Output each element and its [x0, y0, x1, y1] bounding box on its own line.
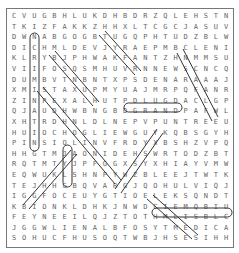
letter-cell[interactable]: M: [49, 149, 59, 160]
letter-cell[interactable]: D: [110, 149, 120, 160]
letter-cell[interactable]: F: [39, 64, 49, 75]
letter-cell[interactable]: H: [150, 32, 160, 43]
letter-cell[interactable]: S: [39, 138, 49, 149]
letter-cell[interactable]: J: [140, 85, 150, 96]
letter-cell[interactable]: Q: [191, 191, 201, 202]
letter-cell[interactable]: E: [19, 212, 29, 223]
letter-cell[interactable]: K: [80, 22, 90, 33]
letter-cell[interactable]: Q: [70, 64, 80, 75]
letter-cell[interactable]: D: [49, 106, 59, 117]
letter-cell[interactable]: E: [181, 233, 191, 244]
letter-cell[interactable]: O: [70, 128, 80, 139]
letter-cell[interactable]: T: [110, 96, 120, 107]
letter-cell[interactable]: R: [120, 43, 130, 54]
letter-cell[interactable]: K: [100, 202, 110, 213]
letter-cell[interactable]: L: [100, 117, 110, 128]
letter-cell[interactable]: N: [201, 64, 211, 75]
letter-cell[interactable]: S: [201, 22, 211, 33]
letter-cell[interactable]: S: [9, 233, 19, 244]
letter-cell[interactable]: C: [150, 202, 160, 213]
letter-cell[interactable]: N: [90, 106, 100, 117]
letter-cell[interactable]: P: [211, 138, 221, 149]
letter-cell[interactable]: H: [49, 181, 59, 192]
letter-cell[interactable]: T: [9, 22, 19, 33]
letter-cell[interactable]: C: [191, 96, 201, 107]
letter-cell[interactable]: I: [171, 159, 181, 170]
letter-cell[interactable]: N: [160, 106, 170, 117]
letter-cell[interactable]: V: [191, 181, 201, 192]
letter-cell[interactable]: T: [171, 149, 181, 160]
letter-cell[interactable]: S: [181, 64, 191, 75]
letter-cell[interactable]: C: [211, 223, 221, 234]
letter-cell[interactable]: E: [171, 202, 181, 213]
letter-cell[interactable]: A: [201, 75, 211, 86]
letter-cell[interactable]: L: [80, 212, 90, 223]
letter-cell[interactable]: U: [110, 64, 120, 75]
letter-cell[interactable]: G: [130, 128, 140, 139]
letter-cell[interactable]: V: [140, 117, 150, 128]
letter-cell[interactable]: Y: [110, 170, 120, 181]
letter-cell[interactable]: K: [9, 202, 19, 213]
letter-cell[interactable]: G: [211, 96, 221, 107]
letter-cell[interactable]: P: [80, 159, 90, 170]
letter-cell[interactable]: T: [9, 181, 19, 192]
letter-cell[interactable]: R: [130, 64, 140, 75]
letter-cell[interactable]: E: [140, 191, 150, 202]
letter-cell[interactable]: P: [70, 53, 80, 64]
letter-cell[interactable]: X: [120, 159, 130, 170]
letter-cell[interactable]: N: [80, 223, 90, 234]
letter-cell[interactable]: S: [201, 11, 211, 22]
letter-cell[interactable]: P: [171, 85, 181, 96]
letter-cell[interactable]: Q: [9, 106, 19, 117]
letter-cell[interactable]: I: [80, 138, 90, 149]
letter-cell[interactable]: S: [130, 159, 140, 170]
letter-cell[interactable]: L: [211, 212, 221, 223]
letter-cell[interactable]: L: [150, 191, 160, 202]
letter-cell[interactable]: J: [70, 159, 80, 170]
letter-cell[interactable]: B: [110, 106, 120, 117]
letter-cell[interactable]: M: [171, 223, 181, 234]
letter-cell[interactable]: R: [221, 85, 231, 96]
letter-cell[interactable]: Z: [90, 22, 100, 33]
letter-cell[interactable]: F: [110, 138, 120, 149]
letter-cell[interactable]: W: [90, 53, 100, 64]
letter-cell[interactable]: U: [29, 11, 39, 22]
letter-cell[interactable]: L: [80, 96, 90, 107]
letter-cell[interactable]: J: [9, 223, 19, 234]
letter-cell[interactable]: T: [120, 233, 130, 244]
letter-cell[interactable]: E: [70, 191, 80, 202]
letter-cell[interactable]: L: [59, 43, 69, 54]
letter-cell[interactable]: Q: [160, 11, 170, 22]
letter-cell[interactable]: D: [130, 11, 140, 22]
letter-cell[interactable]: B: [110, 223, 120, 234]
letter-cell[interactable]: M: [160, 43, 170, 54]
letter-cell[interactable]: G: [29, 191, 39, 202]
letter-cell[interactable]: G: [80, 128, 90, 139]
letter-cell[interactable]: H: [59, 128, 69, 139]
letter-cell[interactable]: Q: [19, 170, 29, 181]
letter-cell[interactable]: B: [201, 32, 211, 43]
letter-cell[interactable]: B: [140, 233, 150, 244]
letter-cell[interactable]: Q: [221, 64, 231, 75]
letter-cell[interactable]: A: [191, 22, 201, 33]
letter-cell[interactable]: Y: [29, 212, 39, 223]
letter-cell[interactable]: A: [70, 96, 80, 107]
letter-cell[interactable]: P: [130, 117, 140, 128]
letter-cell[interactable]: A: [130, 53, 140, 64]
letter-cell[interactable]: Y: [150, 128, 160, 139]
letter-cell[interactable]: L: [90, 128, 100, 139]
letter-cell[interactable]: D: [9, 32, 19, 43]
letter-cell[interactable]: F: [9, 212, 19, 223]
letter-cell[interactable]: L: [171, 11, 181, 22]
letter-cell[interactable]: H: [39, 181, 49, 192]
letter-cell[interactable]: Z: [191, 32, 201, 43]
letter-cell[interactable]: V: [9, 64, 19, 75]
letter-cell[interactable]: E: [211, 117, 221, 128]
letter-cell[interactable]: Q: [110, 233, 120, 244]
letter-cell[interactable]: L: [140, 96, 150, 107]
letter-cell[interactable]: M: [49, 43, 59, 54]
letter-cell[interactable]: N: [140, 53, 150, 64]
letter-cell[interactable]: N: [160, 75, 170, 86]
letter-cell[interactable]: M: [201, 53, 211, 64]
letter-cell[interactable]: C: [191, 64, 201, 75]
